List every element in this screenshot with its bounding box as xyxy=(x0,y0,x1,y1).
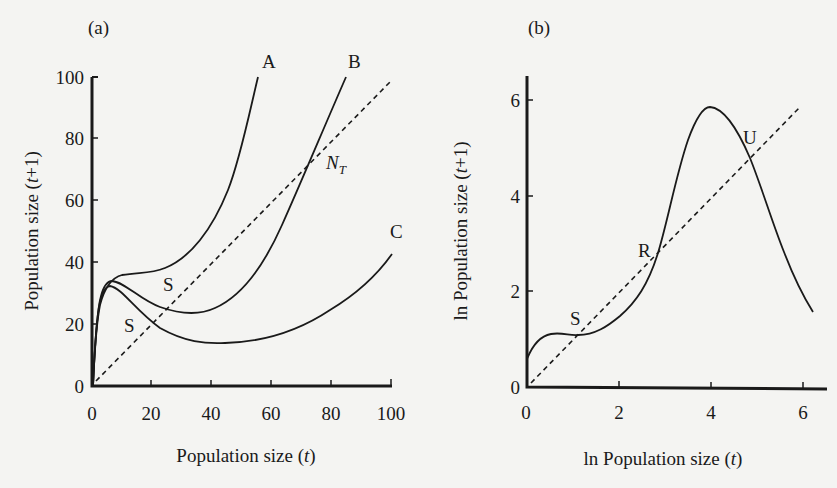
panel-a-label: (a) xyxy=(88,17,109,39)
y-tick-20: 20 xyxy=(65,314,84,335)
panel-b-y-tick-labels: 6 4 2 0 xyxy=(511,90,521,398)
y-tick-100: 100 xyxy=(56,67,85,88)
b-y-tick-6: 6 xyxy=(511,90,521,111)
panel-b-replacement-line xyxy=(531,106,801,383)
panel-a-replacement-line xyxy=(96,82,390,381)
y-tick-0: 0 xyxy=(75,376,85,397)
x-tick-80: 80 xyxy=(322,403,341,424)
y-tick-60: 60 xyxy=(65,190,84,211)
x-tick-20: 20 xyxy=(142,403,161,424)
label-c: C xyxy=(390,221,403,242)
b-x-tick-0: 0 xyxy=(521,402,531,423)
label-b: B xyxy=(348,51,361,72)
curve-a xyxy=(93,77,258,386)
panel-a-y-tick-labels: 100 80 60 40 20 0 xyxy=(56,67,85,397)
label-a: A xyxy=(262,51,276,72)
b-y-tick-2: 2 xyxy=(511,281,521,302)
y-tick-40: 40 xyxy=(65,252,84,273)
b-y-tick-0: 0 xyxy=(511,377,521,398)
label-nt: NT xyxy=(325,152,347,177)
label-s-lower: S xyxy=(124,315,135,336)
figure: (a) 100 80 60 40 20 0 0 xyxy=(0,0,837,488)
panel-b-x-tick-labels: 0 2 4 6 xyxy=(521,402,808,423)
curve-b xyxy=(93,77,346,386)
b-x-tick-4: 4 xyxy=(706,402,716,423)
b-y-tick-4: 4 xyxy=(511,186,521,207)
x-tick-40: 40 xyxy=(202,403,221,424)
panel-b-y-axis-title: ln Population size (t+1) xyxy=(450,141,472,320)
panel-a: (a) 100 80 60 40 20 0 0 xyxy=(21,17,405,467)
label-b-r: R xyxy=(638,240,651,261)
panel-b-x-axis-title: ln Population size (t) xyxy=(584,448,743,470)
panel-a-x-axis-title: Population size (t) xyxy=(176,445,315,467)
y-tick-80: 80 xyxy=(65,128,84,149)
x-tick-100: 100 xyxy=(377,403,406,424)
x-tick-60: 60 xyxy=(262,403,281,424)
label-b-s: S xyxy=(570,308,581,329)
b-x-tick-6: 6 xyxy=(798,402,808,423)
panel-b-label: (b) xyxy=(528,17,550,39)
x-tick-0: 0 xyxy=(87,403,97,424)
panel-b: (b) 6 4 2 0 0 2 4 6 ln Population size (… xyxy=(450,17,827,470)
label-b-u: U xyxy=(743,127,757,148)
label-s-upper: S xyxy=(163,274,174,295)
panel-a-y-axis-title: Population size (t+1) xyxy=(21,151,43,311)
b-x-tick-2: 2 xyxy=(614,402,624,423)
panel-a-x-tick-labels: 0 20 40 60 80 100 xyxy=(87,403,405,424)
